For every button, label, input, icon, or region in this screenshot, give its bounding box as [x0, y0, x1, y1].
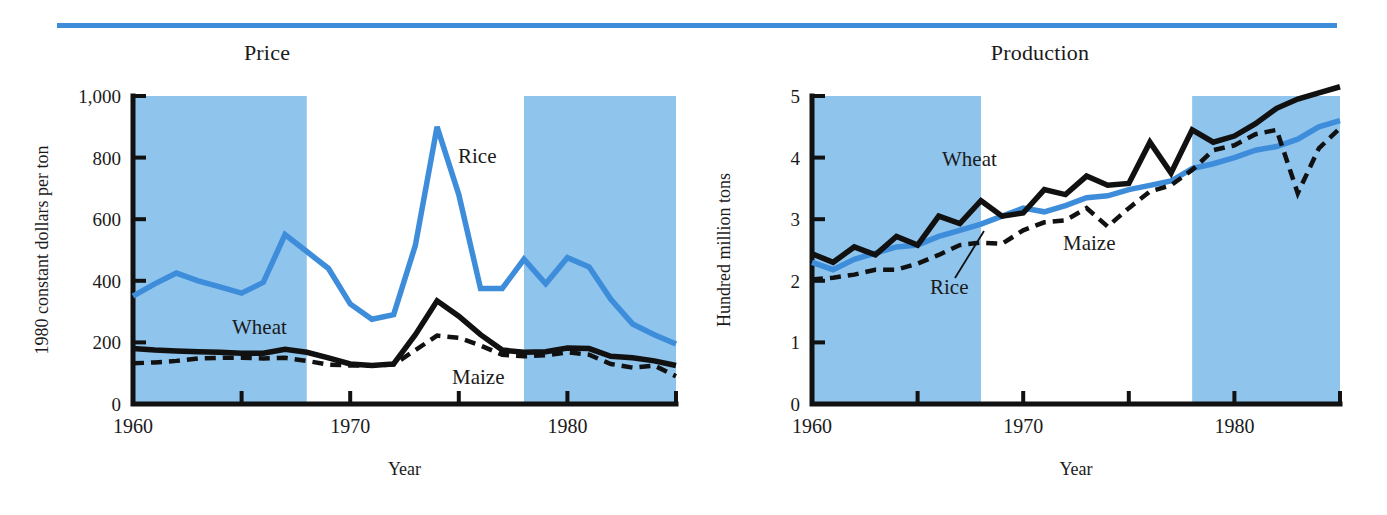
- figure-root: Price 02004006008001,000196019701980Rice…: [0, 0, 1387, 515]
- y-tick-label-4: 800: [93, 148, 122, 169]
- production-chart-svg: 012345196019701980WheatRiceMaizeYearHund…: [693, 0, 1387, 515]
- y-axis-title: Hundred million tons: [714, 173, 734, 327]
- y-tick-label-0: 0: [791, 394, 801, 415]
- y-tick-label-1: 200: [93, 332, 122, 353]
- x-axis-title: Year: [1059, 459, 1092, 479]
- x-tick-label-0: 1960: [792, 415, 832, 437]
- y-tick-label-0: 0: [112, 394, 122, 415]
- shaded-band-0: [812, 96, 981, 404]
- x-tick-label-0: 1960: [113, 415, 153, 437]
- shaded-band-1: [524, 96, 676, 404]
- series-label-wheat: Wheat: [232, 315, 287, 339]
- series-label-rice: Rice: [458, 144, 496, 168]
- series-label-rice: Rice: [930, 275, 968, 299]
- y-tick-label-4: 4: [791, 148, 801, 169]
- series-label-wheat: Wheat: [942, 147, 997, 171]
- y-tick-label-2: 2: [791, 271, 801, 292]
- y-tick-label-3: 3: [791, 209, 801, 230]
- price-chart-svg: 02004006008001,000196019701980RiceWheatM…: [0, 0, 694, 515]
- y-axis-title: 1980 constant dollars per ton: [32, 146, 52, 355]
- x-tick-label-4: 1980: [547, 415, 587, 437]
- y-tick-label-5: 1,000: [78, 86, 121, 107]
- panel-production: Production 012345196019701980WheatRiceMa…: [693, 0, 1387, 515]
- series-label-maize: Maize: [1063, 231, 1115, 255]
- series-label-maize: Maize: [452, 365, 504, 389]
- y-tick-label-1: 1: [791, 332, 801, 353]
- panel-price: Price 02004006008001,000196019701980Rice…: [0, 0, 694, 515]
- y-tick-label-2: 400: [93, 271, 122, 292]
- y-tick-label-5: 5: [791, 86, 801, 107]
- x-tick-label-2: 1970: [1003, 415, 1043, 437]
- x-tick-label-2: 1970: [330, 415, 370, 437]
- x-axis-title: Year: [388, 459, 421, 479]
- x-tick-label-4: 1980: [1214, 415, 1254, 437]
- y-tick-label-3: 600: [93, 209, 122, 230]
